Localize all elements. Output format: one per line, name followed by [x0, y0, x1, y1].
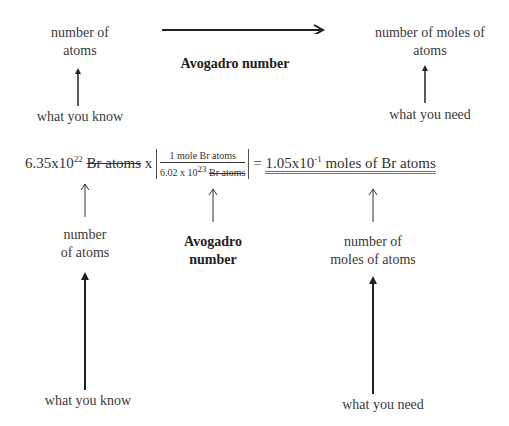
top-left-caption: what you know: [20, 108, 140, 126]
bottom-right-label: number ofmoles of atoms: [313, 233, 433, 269]
result: 1.05x10-1 moles of Br atoms: [265, 155, 435, 174]
top-right-caption: what you need: [370, 106, 490, 124]
up-arrow-icon: [420, 65, 430, 103]
conversion-equation: 6.35x1022 Br atoms x 1 mole Br atoms 6.0…: [25, 149, 436, 179]
bottom-left-caption: what you know: [28, 392, 148, 410]
up-arrow-icon: [208, 188, 218, 222]
up-arrow-icon: [73, 68, 83, 106]
bottom-center-label: Avogadronumber: [163, 233, 263, 269]
bottom-right-caption: what you need: [323, 396, 443, 414]
up-arrow-icon: [80, 183, 90, 217]
up-arrow-icon: [368, 276, 378, 396]
right-arrow-icon: [160, 22, 330, 34]
top-right-label: number of moles ofatoms: [360, 24, 500, 60]
top-center-label: Avogadro number: [160, 55, 310, 73]
up-arrow-icon: [80, 272, 90, 392]
avogadro-fraction: 1 mole Br atoms 6.02 x 1023 Br atoms: [156, 149, 249, 179]
bottom-left-label: numberof atoms: [35, 226, 135, 262]
up-arrow-icon: [368, 188, 378, 222]
top-left-label: number ofatoms: [30, 24, 130, 60]
